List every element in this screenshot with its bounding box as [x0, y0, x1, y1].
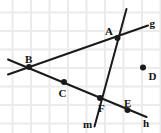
point-label-D: D: [149, 71, 157, 82]
point-label-C: C: [59, 88, 67, 99]
point-D: [140, 65, 146, 71]
point-label-B: B: [25, 54, 32, 65]
point-A: [115, 35, 121, 41]
point-label-E: E: [124, 98, 131, 109]
point-label-F: F: [98, 103, 105, 114]
line-label-h: h: [143, 118, 149, 129]
point-C: [61, 79, 67, 85]
geometry-diagram: ABCDEF ghm: [0, 0, 161, 133]
point-label-A: A: [105, 26, 113, 37]
line-label-g: g: [150, 18, 156, 29]
line-label-m: m: [83, 119, 92, 130]
diagram-canvas: [0, 0, 161, 133]
point-F: [97, 95, 103, 101]
